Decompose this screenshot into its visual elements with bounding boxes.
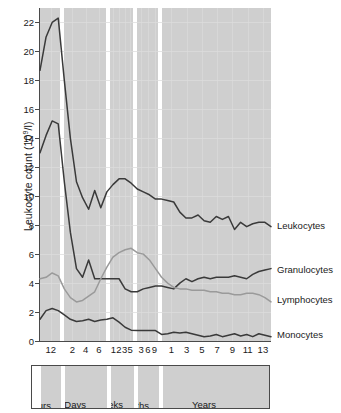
x-axis-tick-label: 9	[230, 344, 235, 355]
y-axis-tickmark	[35, 109, 39, 110]
x-axis-tick-label: 6	[96, 344, 101, 355]
series-line-monocytes	[40, 308, 271, 336]
x-axis-tick-label: 5	[199, 344, 204, 355]
period-label: Days	[65, 400, 86, 409]
period-label: Weeks	[111, 400, 123, 409]
plot-area	[40, 8, 271, 341]
series-line-leukocytes	[40, 18, 271, 229]
x-axis-tick-label: 3	[184, 344, 189, 355]
y-axis-tick-label: 14	[8, 133, 34, 144]
x-axis-tick-label: 13	[258, 344, 269, 355]
x-axis-tick-label: 1	[169, 344, 174, 355]
period-segment-days: Days	[65, 366, 107, 408]
x-axis-tick-label: 7	[215, 344, 220, 355]
x-axis-tick-label: 2	[116, 344, 121, 355]
y-axis-tick-label: 20	[8, 46, 34, 57]
x-axis-tick-label: 1	[111, 344, 116, 355]
y-axis-tickmark	[35, 22, 39, 23]
x-axis-tick-label: 6	[145, 344, 150, 355]
y-axis-tick-label: 4	[8, 278, 34, 289]
y-axis-tickmark	[35, 341, 39, 342]
period-label: Months	[138, 400, 149, 409]
x-axis-tick-label: 12	[46, 344, 57, 355]
y-axis-tick-label: 16	[8, 104, 34, 115]
y-axis-tick-label: 8	[8, 220, 34, 231]
x-axis-tick-labels: 122461235369135791113	[0, 344, 341, 357]
y-axis-tickmark	[35, 312, 39, 313]
x-axis-line	[39, 341, 271, 342]
series-label-lymphocytes: Lymphocytes	[277, 294, 333, 305]
y-axis-tickmark	[35, 225, 39, 226]
y-axis-tickmark	[35, 80, 39, 81]
y-axis-tick-label: 18	[8, 75, 34, 86]
series-line-granulocytes	[40, 121, 271, 292]
series-label-monocytes: Monocytes	[277, 329, 323, 340]
period-segment-weeks: Weeks	[111, 366, 134, 408]
leukocyte-count-chart: Leukocyte count (109/l) 0246810121416182…	[0, 0, 341, 413]
y-axis-tickmark	[35, 283, 39, 284]
period-segment-hours: Hours	[41, 366, 61, 408]
time-period-bar: HoursDaysWeeksMonthsYears	[31, 365, 270, 409]
y-axis-tick-label: 12	[8, 162, 34, 173]
y-axis-tick-label: 6	[8, 249, 34, 260]
x-axis-tick-label: 4	[83, 344, 88, 355]
x-axis-tick-label: 11	[243, 344, 253, 355]
y-axis-tick-label: 22	[8, 17, 34, 28]
x-axis-tick-label: 9	[152, 344, 157, 355]
y-axis-tickmark	[35, 51, 39, 52]
period-segment-months: Months	[138, 366, 159, 408]
series-lines	[40, 8, 271, 341]
y-axis-tick-label: 2	[8, 307, 34, 318]
period-segment-years: Years	[163, 366, 269, 408]
x-axis-tick-label: 2	[70, 344, 75, 355]
period-label: Hours	[41, 400, 51, 409]
x-axis-tick-label: 5	[127, 344, 132, 355]
y-axis-tickmark	[35, 167, 39, 168]
x-axis-tick-label: 3	[122, 344, 127, 355]
series-label-granulocytes: Granulocytes	[277, 263, 333, 274]
y-axis-tickmark	[35, 196, 39, 197]
x-axis-tick-label: 3	[139, 344, 144, 355]
y-axis-tickmark	[35, 138, 39, 139]
y-axis-tickmark	[35, 254, 39, 255]
y-axis-tick-label: 10	[8, 191, 34, 202]
series-label-leukocytes: Leukocytes	[277, 220, 325, 231]
period-label: Years	[192, 400, 216, 409]
